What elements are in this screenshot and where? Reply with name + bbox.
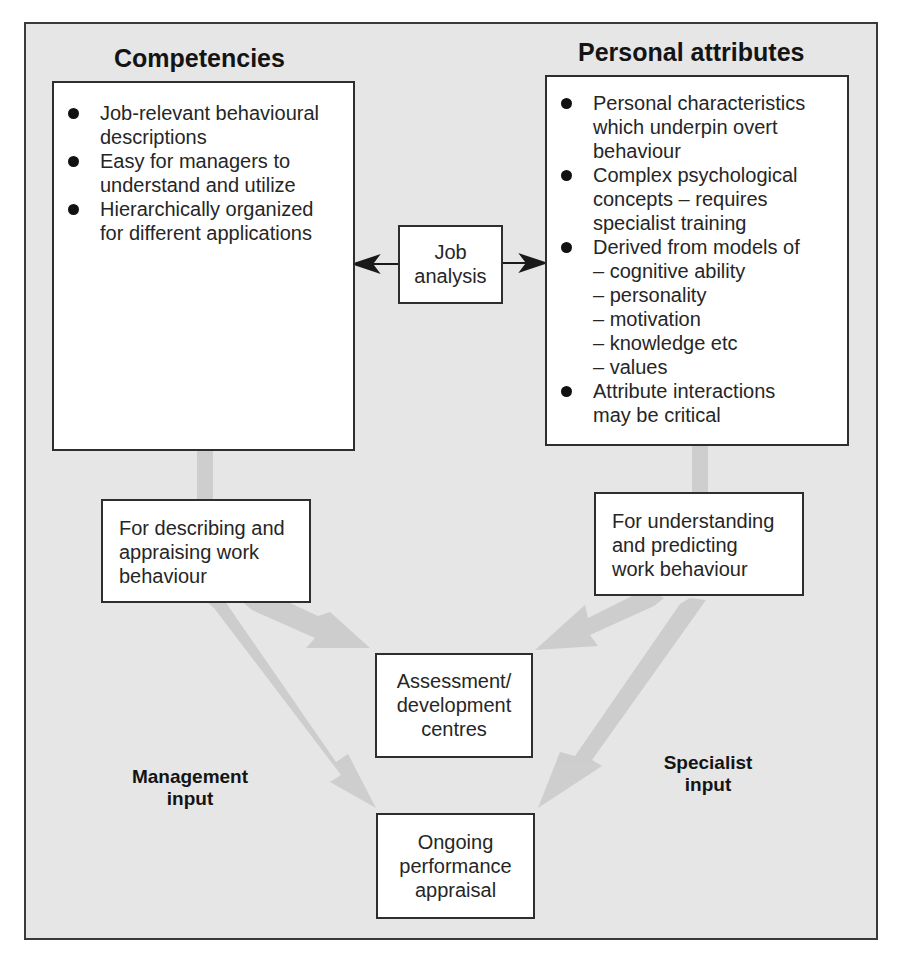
line: Complex psychological (593, 163, 847, 187)
line: Job (400, 240, 501, 264)
assessment-centres-box: Assessment/ development centres (375, 653, 533, 758)
bullet-icon (68, 204, 79, 215)
bullet-icon (68, 156, 79, 167)
line: understand and utilize (100, 173, 353, 197)
line: – cognitive ability (593, 259, 847, 283)
line: which underpin overt (593, 115, 847, 139)
personal-attributes-box: Personal characteristics which underpin … (545, 75, 849, 446)
job-analysis-box: Job analysis (398, 225, 503, 304)
line: behaviour (119, 564, 309, 588)
line: – knowledge etc (593, 331, 847, 355)
competencies-box: Job-relevant behavioural descriptions Ea… (52, 81, 355, 451)
bullet-icon (561, 242, 572, 253)
bullet-icon (68, 108, 79, 119)
line: Management (120, 766, 260, 788)
line: – personality (593, 283, 847, 307)
personal-attributes-heading: Personal attributes (578, 38, 804, 67)
line: Ongoing (378, 830, 533, 854)
line: and predicting (612, 533, 802, 557)
specialist-input-label: Specialist input (648, 752, 768, 796)
competency-item: Hierarchically organized for different a… (54, 197, 353, 245)
line: behaviour (593, 139, 847, 163)
line: Easy for managers to (100, 149, 353, 173)
line: appraisal (378, 878, 533, 902)
competencies-heading: Competencies (114, 44, 285, 73)
line: specialist training (593, 211, 847, 235)
attribute-item: Attribute interactions may be critical (547, 379, 847, 427)
line: descriptions (100, 125, 353, 149)
line: Assessment/ (377, 669, 531, 693)
competencies-list: Job-relevant behavioural descriptions Ea… (54, 101, 353, 245)
line: appraising work (119, 540, 309, 564)
line: development (377, 693, 531, 717)
line: Specialist (648, 752, 768, 774)
bullet-icon (561, 170, 572, 181)
line: Attribute interactions (593, 379, 847, 403)
line: work behaviour (612, 557, 802, 581)
line: input (120, 788, 260, 810)
line: Hierarchically organized (100, 197, 353, 221)
arrow-right-to-assessment (535, 588, 664, 650)
line: For describing and (119, 516, 309, 540)
line: Derived from models of (593, 235, 847, 259)
line: For understanding (612, 509, 802, 533)
line: input (648, 774, 768, 796)
line: may be critical (593, 403, 847, 427)
line: for different applications (100, 221, 353, 245)
line: centres (377, 717, 531, 741)
bullet-icon (561, 98, 572, 109)
line: – motivation (593, 307, 847, 331)
competency-item: Job-relevant behavioural descriptions (54, 101, 353, 149)
connector-right (692, 443, 708, 495)
understanding-predicting-box: For understanding and predicting work be… (594, 492, 804, 596)
line: concepts – requires (593, 187, 847, 211)
personal-attributes-list: Personal characteristics which underpin … (547, 91, 847, 427)
bullet-icon (561, 386, 572, 397)
performance-appraisal-box: Ongoing performance appraisal (376, 813, 535, 919)
line: Personal characteristics (593, 91, 847, 115)
line: performance (378, 854, 533, 878)
line: Job-relevant behavioural (100, 101, 353, 125)
connector-left (197, 450, 213, 500)
line: analysis (400, 264, 501, 288)
describing-appraising-box: For describing and appraising work behav… (101, 499, 311, 603)
line: – values (593, 355, 847, 379)
attribute-item: Derived from models of – cognitive abili… (547, 235, 847, 379)
competency-item: Easy for managers to understand and util… (54, 149, 353, 197)
attribute-item: Complex psychological concepts – require… (547, 163, 847, 235)
attribute-item: Personal characteristics which underpin … (547, 91, 847, 163)
management-input-label: Management input (120, 766, 260, 810)
